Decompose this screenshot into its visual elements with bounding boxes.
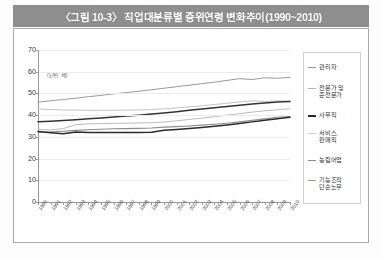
y-axis-tick [35,50,38,51]
gridline [39,159,290,160]
x-axis-tick [164,202,165,205]
legend-item-label: 서비스, 판매직 [319,129,338,144]
chart-series-line [38,101,290,111]
gridline [39,72,290,73]
legend-item: 전문가 및 준전문가 [308,84,343,99]
chart-series-line [38,77,290,102]
legend-color-swatch [308,180,316,181]
x-axis-tick [189,202,190,205]
x-axis-tick [240,202,241,205]
figure-container: 〈그림 10-3〉 직업대분류별 중위연령 변화추이(1990~2010) (단… [0,0,382,259]
legend-color-swatch [308,160,316,161]
gridline [39,115,290,116]
x-axis-tick [290,202,291,205]
legend-item-label: 기능조작 단순노무 [319,176,342,191]
legend-item-label: 농림어업 [319,156,342,163]
x-axis-tick [227,202,228,205]
y-axis-tick [35,159,38,160]
x-axis-tick [265,202,266,205]
legend-item-label: 사무직 [319,111,336,118]
legend-item: 관리자 [308,63,336,70]
legend-item: 서비스, 판매직 [308,129,338,144]
gridline [39,93,290,94]
chart-series-line [38,101,290,121]
x-axis-tick [214,202,215,205]
x-axis-tick [126,202,127,205]
legend-item: 사무직 [308,111,336,118]
figure-title-bar: 〈그림 10-3〉 직업대분류별 중위연령 변화추이(1990~2010) [13,5,369,27]
y-axis-tick [35,93,38,94]
legend-color-swatch [308,133,316,134]
legend-item-label: 관리자 [319,63,336,70]
x-axis-tick [101,202,102,205]
legend-color-swatch [308,67,316,68]
legend-item-label: 전문가 및 준전문가 [319,84,343,99]
x-axis-tick [63,202,64,205]
gridline [39,50,290,51]
y-axis-tick [35,72,38,73]
y-axis-labels: 010203040506070 [10,44,36,210]
x-axis-tick [38,202,39,205]
legend-color-swatch [308,88,316,89]
legend-item: 농림어업 [308,156,342,163]
gridline [39,137,290,138]
y-axis-tick [35,137,38,138]
x-axis-tick [139,202,140,205]
x-axis-tick [114,202,115,205]
y-axis-tick [35,180,38,181]
page-title: 〈그림 10-3〉 직업대분류별 중위연령 변화추이(1990~2010) [60,9,321,24]
x-axis-tick [202,202,203,205]
x-axis-tick [51,202,52,205]
x-axis-tick [76,202,77,205]
gridline [39,180,290,181]
x-axis-tick [277,202,278,205]
x-axis-tick [252,202,253,205]
y-axis-tick [35,115,38,116]
legend-item: 기능조작 단순노무 [308,176,342,191]
x-axis-tick [151,202,152,205]
x-axis-tick [177,202,178,205]
x-axis-tick [88,202,89,205]
legend-color-swatch [308,115,316,117]
chart-legend: 관리자전문가 및 준전문가사무직서비스, 판매직농림어업기능조작 단순노무 [303,52,361,204]
